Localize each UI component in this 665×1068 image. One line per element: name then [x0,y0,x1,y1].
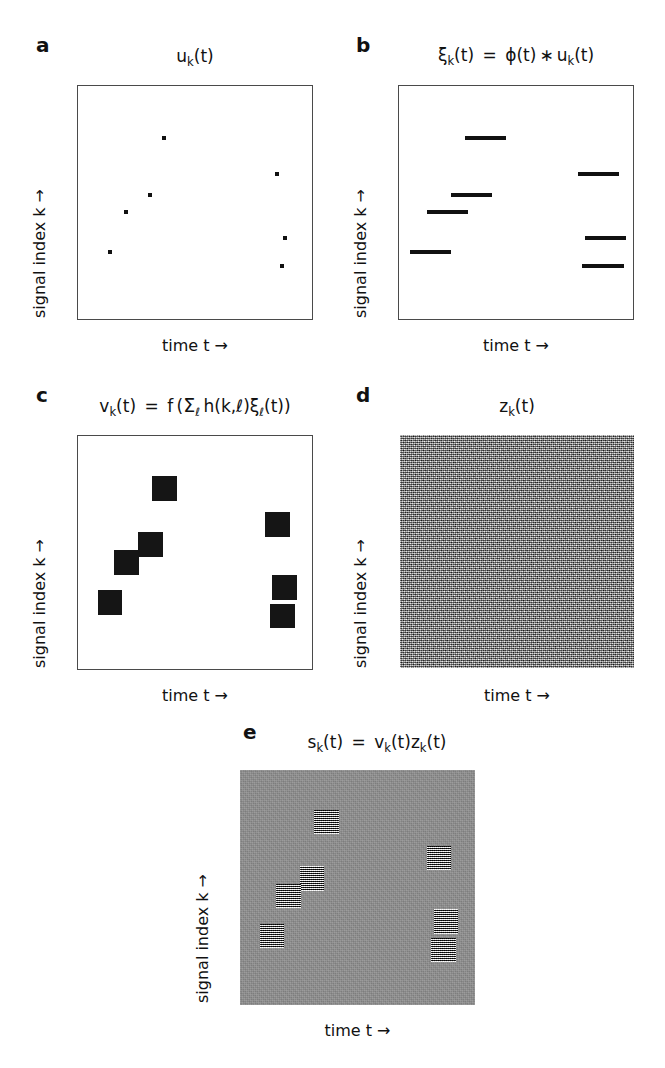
event-dash [465,136,506,140]
panel-d-y-axis-label: signal index k → [351,539,370,668]
noise-field [400,435,634,668]
event-dash [451,193,492,197]
event-dot [275,172,279,176]
event-noise-patch [427,846,452,871]
panel-a-letter: a [36,35,50,55]
panel-d-image [400,435,634,668]
event-square [114,550,139,575]
panel-d-x-axis-label: time t → [400,686,634,705]
event-square [98,590,123,615]
panel-c-x-axis-label: time t → [77,686,313,705]
panel-c-plot-area [77,435,313,670]
event-dash [582,264,623,268]
panel-e-image [240,770,475,1005]
event-dash [410,250,451,254]
panel-b-plot-area [398,85,634,320]
event-noise-patch [300,866,325,891]
event-noise-patch [314,810,339,835]
panel-a-x-axis-label: time t → [77,336,313,355]
event-square [152,476,177,501]
event-noise-patch [434,909,459,934]
panel-b-x-axis-label: time t → [398,336,634,355]
event-square [265,512,290,537]
panel-c-title: vk(t) = f (Σℓ h(k,ℓ)ξℓ(t)) [72,396,318,418]
event-dot [283,236,287,240]
event-dash [578,172,619,176]
panel-e-letter: e [243,722,257,742]
event-square [138,532,163,557]
panel-a-title: uk(t) [77,48,313,68]
event-dash [585,236,626,240]
panel-b-title: ξk(t) = ϕ(t)∗uk(t) [398,47,634,67]
event-noise-patch [431,938,456,963]
panel-c-letter: c [36,385,48,405]
event-dot [280,264,284,268]
panel-b-letter: b [356,35,370,55]
event-square [272,575,297,600]
event-noise-patch [276,884,301,909]
event-dash [427,210,468,214]
figure-root: a uk(t) signal index k → time t → b ξk(t… [0,0,665,1068]
event-square [270,604,295,629]
event-dot [108,250,112,254]
panel-d-title: zk(t) [400,398,634,418]
event-dot [162,136,166,140]
panel-c-y-axis-label: signal index k → [30,539,49,668]
panel-b-y-axis-label: signal index k → [351,189,370,318]
panel-d-letter: d [356,385,370,405]
event-noise-patch [260,924,285,949]
event-dot [124,210,128,214]
panel-e-x-axis-label: time t → [240,1021,475,1040]
panel-e-y-axis-label: signal index k → [193,874,212,1003]
panel-e-title: sk(t) = vk(t)zk(t) [272,734,482,754]
panel-a-y-axis-label: signal index k → [30,189,49,318]
panel-a-plot-area [77,85,313,320]
event-dot [148,193,152,197]
